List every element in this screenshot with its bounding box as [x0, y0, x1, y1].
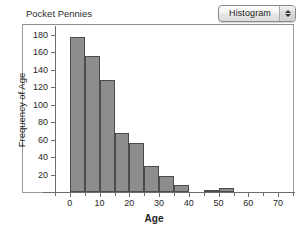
- chart-window: Histogram Pocket Pennies 204060801001201…: [0, 0, 308, 239]
- plot-type-popup-label: Histogram: [219, 6, 279, 21]
- x-tick-label: 20: [124, 198, 134, 208]
- plot-type-stepper[interactable]: [279, 6, 295, 21]
- arrow-down-icon: [285, 14, 291, 17]
- x-tick-label: 50: [214, 198, 224, 208]
- plot-area: [23, 25, 295, 194]
- x-tick-label: 10: [95, 198, 105, 208]
- chart-title: Pocket Pennies: [26, 8, 92, 19]
- x-tick-label: 70: [273, 198, 283, 208]
- plot-type-popup-button[interactable]: Histogram: [218, 5, 296, 22]
- x-tick-label: 60: [243, 198, 253, 208]
- arrow-up-icon: [285, 10, 291, 13]
- x-axis-title: Age: [0, 213, 308, 224]
- x-tick-label: 0: [67, 198, 72, 208]
- plot-frame: [22, 24, 294, 193]
- x-tick-label: 40: [184, 198, 194, 208]
- x-tick-label: 30: [154, 198, 164, 208]
